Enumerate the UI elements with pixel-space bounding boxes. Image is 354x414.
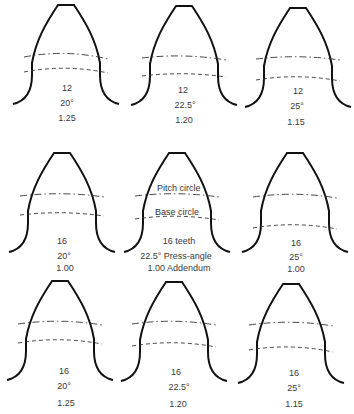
pressure-angle-label: 20° <box>12 99 122 108</box>
addendum-label: 1.00 Addendum <box>124 264 234 273</box>
pitch-circle-line <box>256 57 340 60</box>
addendum-label: 1.15 <box>241 118 351 127</box>
teeth-count-label: 16 <box>239 369 349 378</box>
base-circle-label: Base circle <box>155 208 199 217</box>
base-circle-line <box>24 68 108 73</box>
pitch-circle-line <box>24 53 108 59</box>
addendum-label: 1.20 <box>123 400 233 409</box>
teeth-count-label: 16 <box>9 367 119 376</box>
pressure-angle-label: 20° <box>9 382 119 391</box>
base-circle-line <box>142 74 226 77</box>
base-circle-line <box>256 77 340 81</box>
base-circle-line <box>249 347 333 352</box>
pressure-angle-label: 22.5° Press-angle <box>121 252 231 261</box>
teeth-count-label: 16 <box>241 239 351 248</box>
addendum-label: 1.00 <box>241 265 351 274</box>
pressure-angle-label: 25° <box>242 102 352 111</box>
base-circle-line <box>253 225 337 229</box>
teeth-count-label: 12 <box>128 86 238 95</box>
teeth-count-label: 16 teeth <box>124 237 234 246</box>
pressure-angle-label: 22.5° <box>124 383 234 392</box>
pressure-angle-label: 25° <box>239 384 349 393</box>
base-circle-line <box>20 213 104 216</box>
base-circle-line <box>18 340 102 344</box>
base-circle-line <box>132 343 216 347</box>
pressure-angle-label: 22.5° <box>130 101 240 110</box>
teeth-count-label: 16 <box>121 368 231 377</box>
pitch-circle-label: Pitch circle <box>157 184 201 193</box>
addendum-label: 1.25 <box>11 399 121 408</box>
teeth-count-label: 16 <box>7 237 117 246</box>
addendum-label: 1.25 <box>12 114 122 123</box>
addendum-label: 1.15 <box>239 400 349 409</box>
addendum-label: 1.00 <box>10 264 120 273</box>
pressure-angle-label: 25° <box>241 253 351 262</box>
teeth-count-label: 12 <box>12 84 122 93</box>
addendum-label: 1.20 <box>129 116 239 125</box>
pitch-circle-line <box>142 56 226 60</box>
pressure-angle-label: 20° <box>9 252 119 261</box>
teeth-count-label: 12 <box>243 87 353 96</box>
